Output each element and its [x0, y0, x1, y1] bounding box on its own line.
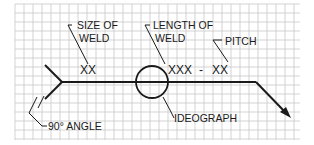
label-pitch: PITCH: [225, 35, 257, 47]
label-size-of-weld-line2: WELD: [79, 32, 110, 44]
value-separator: -: [199, 63, 203, 77]
value-size: XX: [80, 63, 96, 77]
label-length-of-weld-line2: WELD: [155, 32, 186, 44]
value-length: XXX: [168, 63, 192, 77]
label-ideograph: IDEOGRAPH: [174, 112, 237, 124]
label-size-of-weld-line1: SIZE OF: [77, 19, 118, 31]
arrow-leader-line: [256, 82, 286, 113]
angle-arrow-icon: [38, 96, 44, 108]
label-90-angle: 90° ANGLE: [48, 120, 102, 132]
welding-symbol-diagram: SIZE OF WELD LENGTH OF WELD PITCH XX XXX…: [0, 0, 314, 145]
label-length-of-weld-line1: LENGTH OF: [153, 19, 213, 31]
value-pitch: XX: [212, 63, 228, 77]
